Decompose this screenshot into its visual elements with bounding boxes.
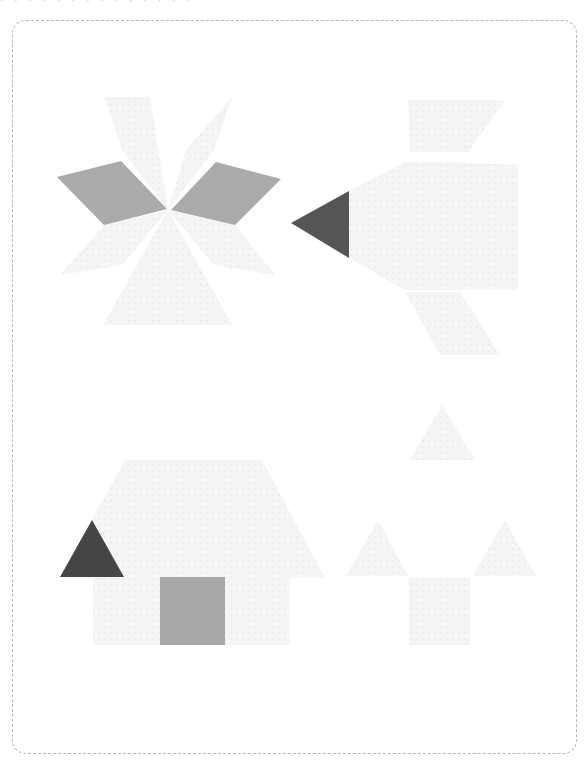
triangle-piece-fish[interactable]: [291, 191, 349, 258]
figure-outline: [346, 405, 536, 645]
fish-outline: [349, 100, 518, 355]
square-piece-house[interactable]: [160, 577, 225, 645]
puzzle-canvas: [0, 0, 587, 767]
